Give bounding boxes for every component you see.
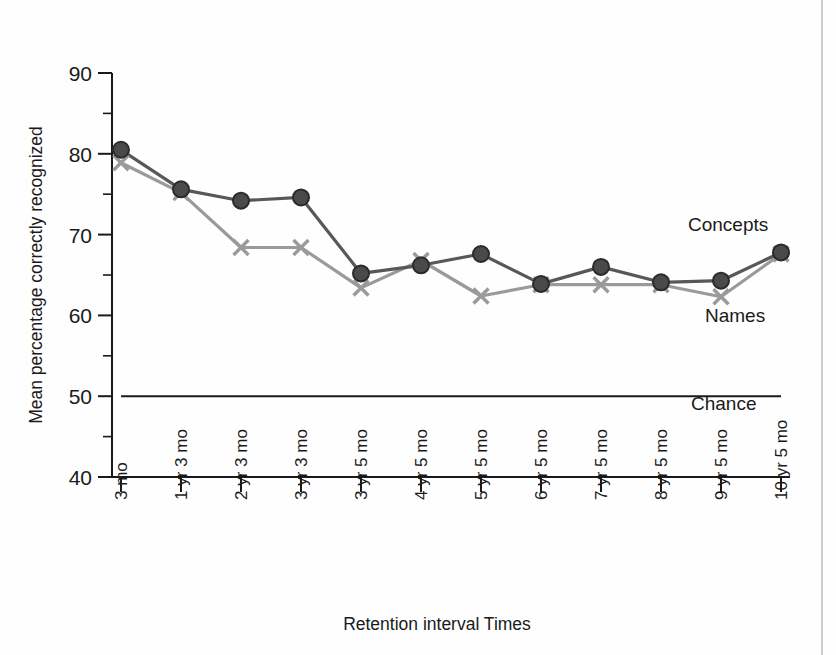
data-point-concepts xyxy=(293,189,309,205)
reference-line-label-chance: Chance xyxy=(691,393,757,414)
figure-page: 405060708090 3 mo1 yr 3 mo2 yr 3 mo3 yr … xyxy=(0,0,836,655)
x-axis-ticks xyxy=(121,477,781,492)
data-point-concepts xyxy=(713,273,729,289)
y-tick-label: 60 xyxy=(69,304,92,327)
y-tick-label: 80 xyxy=(69,143,92,166)
data-point-concepts xyxy=(593,259,609,275)
x-tick-label: 1 yr 3 mo xyxy=(172,429,191,500)
x-tick-label: 2 yr 3 mo xyxy=(232,429,251,500)
data-point-concepts xyxy=(473,246,489,262)
x-tick-label: 10 yr 5 mo xyxy=(772,420,791,500)
y-tick-label: 40 xyxy=(69,466,92,489)
y-axis-ticks xyxy=(98,73,112,477)
data-point-concepts xyxy=(533,276,549,292)
x-axis-tick-labels: 3 mo1 yr 3 mo2 yr 3 mo3 yr 3 mo3 yr 5 mo… xyxy=(112,420,791,500)
x-tick-label: 6 yr 5 mo xyxy=(532,429,551,500)
x-tick-label: 4 yr 5 mo xyxy=(412,429,431,500)
x-tick-label: 7 yr 5 mo xyxy=(592,429,611,500)
series-label-names: Names xyxy=(705,305,765,326)
data-point-concepts xyxy=(353,265,369,281)
data-point-names xyxy=(354,280,369,295)
y-tick-label: 50 xyxy=(69,385,92,408)
y-axis-title: Mean percentage correctly recognized xyxy=(26,126,46,424)
line-chart: 405060708090 3 mo1 yr 3 mo2 yr 3 mo3 yr … xyxy=(0,0,820,655)
data-point-concepts xyxy=(173,181,189,197)
series-line-concepts xyxy=(121,150,781,284)
series-label-concepts: Concepts xyxy=(688,214,768,235)
data-point-concepts xyxy=(653,274,669,290)
x-tick-label: 3 yr 5 mo xyxy=(352,429,371,500)
x-tick-label: 5 yr 5 mo xyxy=(472,429,491,500)
data-point-concepts xyxy=(413,257,429,273)
x-tick-label: 9 yr 5 mo xyxy=(712,429,731,500)
y-axis-tick-labels: 405060708090 xyxy=(69,62,92,489)
chart-svg: 405060708090 3 mo1 yr 3 mo2 yr 3 mo3 yr … xyxy=(0,0,820,655)
x-axis-title: Retention interval Times xyxy=(343,614,531,634)
page-edge-divider xyxy=(821,0,823,655)
data-point-concepts xyxy=(233,193,249,209)
data-point-concepts xyxy=(773,244,789,260)
y-tick-label: 90 xyxy=(69,62,92,85)
x-tick-label: 8 yr 5 mo xyxy=(652,429,671,500)
x-tick-label: 3 mo xyxy=(112,462,131,500)
x-tick-label: 3 yr 3 mo xyxy=(292,429,311,500)
data-point-concepts xyxy=(113,142,129,158)
y-tick-label: 70 xyxy=(69,224,92,247)
series-line-names xyxy=(121,163,781,297)
